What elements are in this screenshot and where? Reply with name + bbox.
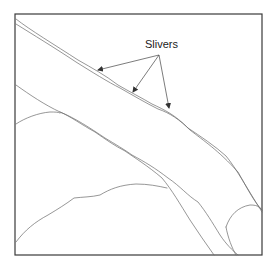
left-region-boundary [16, 112, 60, 124]
slivers-label: Slivers [145, 38, 179, 50]
corner-region-stem [226, 227, 236, 255]
upper-boundary-b [16, 24, 262, 210]
map-frame [15, 14, 262, 255]
bottom-region-boundary [16, 184, 167, 242]
lower-boundary-a [16, 85, 238, 255]
upper-boundary-a [16, 19, 262, 212]
arrow-3 [159, 55, 169, 108]
corner-region-boundary [226, 205, 262, 227]
lower-boundary-b [60, 112, 214, 255]
sliver-diagram: Slivers [0, 0, 274, 269]
